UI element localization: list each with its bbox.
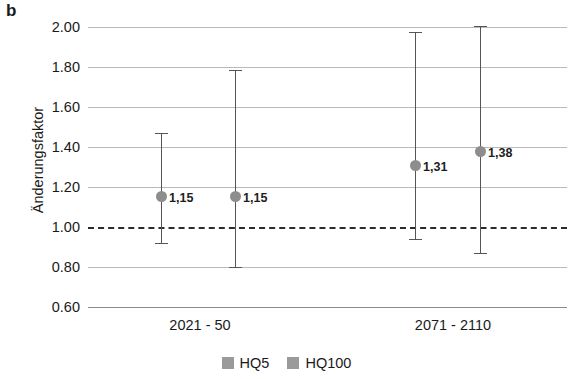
legend-swatch-icon-hq100	[287, 357, 299, 369]
plot-area: 1,15 1,15 1,31 1,38	[88, 27, 567, 307]
chart-figure: b Änderungsfaktor 2.00 1.80 1.60 1.40 1.…	[0, 0, 573, 379]
legend-swatch-icon-hq5	[222, 357, 234, 369]
data-marker-hq5-2071	[410, 160, 421, 171]
gridline-1-20	[88, 187, 567, 188]
gridline-1-80	[88, 67, 567, 68]
errorbar-cap-upper-hq5-2021	[155, 133, 168, 134]
legend-label-hq5: HQ5	[240, 355, 270, 371]
data-marker-hq100-2071	[475, 146, 486, 157]
data-value-label-hq100-2021: 1,15	[243, 192, 267, 205]
legend-label-hq100: HQ100	[305, 355, 351, 371]
x-group-label-2021-50: 2021 - 50	[110, 318, 290, 333]
y-tick-label: 1.40	[24, 140, 80, 155]
legend-item-hq100: HQ100	[287, 355, 351, 371]
legend-item-hq5: HQ5	[222, 355, 270, 371]
gridline-1-60	[88, 107, 567, 108]
data-marker-hq5-2021	[156, 191, 167, 202]
errorbar-line-hq5-2071	[415, 32, 416, 239]
data-value-label-hq5-2021: 1,15	[169, 192, 193, 205]
data-value-label-hq5-2071: 1,31	[423, 161, 447, 174]
legend: HQ5 HQ100	[0, 355, 573, 371]
reference-line-1-00	[88, 227, 567, 229]
y-tick-label: 1.20	[24, 180, 80, 195]
x-axis-line	[88, 307, 567, 308]
gridline-0-80	[88, 267, 567, 268]
errorbar-cap-lower-hq100-2071	[474, 253, 487, 254]
y-tick-label: 2.00	[24, 20, 80, 35]
errorbar-cap-upper-hq5-2071	[409, 32, 422, 33]
errorbar-cap-upper-hq100-2071	[474, 26, 487, 27]
errorbar-cap-lower-hq5-2071	[409, 239, 422, 240]
data-value-label-hq100-2071: 1,38	[488, 147, 512, 160]
errorbar-line-hq100-2021	[235, 70, 236, 267]
y-tick-label: 0.60	[24, 300, 80, 315]
x-group-label-2071-2110: 2071 - 2110	[363, 318, 543, 333]
data-marker-hq100-2021	[230, 191, 241, 202]
y-tick-label: 1.60	[24, 100, 80, 115]
errorbar-cap-lower-hq100-2021	[229, 267, 242, 268]
y-tick-label: 1.80	[24, 60, 80, 75]
errorbar-line-hq100-2071	[480, 26, 481, 253]
gridline-2-00	[88, 27, 567, 28]
panel-label: b	[6, 2, 16, 19]
errorbar-line-hq5-2021	[161, 133, 162, 243]
errorbar-cap-upper-hq100-2021	[229, 70, 242, 71]
y-tick-label: 0.80	[24, 260, 80, 275]
y-tick-label: 1.00	[24, 220, 80, 235]
errorbar-cap-lower-hq5-2021	[155, 243, 168, 244]
